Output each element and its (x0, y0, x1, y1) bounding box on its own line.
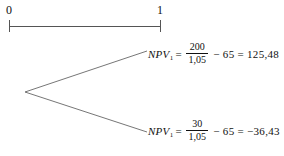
npv-symbol-upper-text: NPV (148, 48, 169, 60)
timeline-axis (9, 20, 160, 32)
lower-branch-line (25, 92, 147, 132)
fraction-lower-denominator: 1,05 (187, 131, 209, 142)
fraction-lower: 30 1,05 (186, 119, 208, 142)
formula-lower-outcome: NPV1 = 30 1,05 − 65 = −36,43 (148, 119, 280, 142)
decision-tree-branches (25, 51, 147, 132)
fraction-lower-numerator: 30 (190, 119, 204, 130)
fraction-upper-denominator: 1,05 (187, 54, 209, 65)
formula-upper-outcome: NPV1 = 200 1,05 − 65 = 125,48 (148, 42, 279, 65)
npv-symbol-lower: NPV1 (148, 125, 173, 137)
fraction-upper: 200 1,05 (186, 42, 208, 65)
upper-branch-line (25, 51, 147, 92)
npv-symbol-lower-text: NPV (148, 125, 169, 137)
equals-sign-lower: = (176, 125, 182, 137)
timeline-label-1: 1 (152, 4, 168, 16)
cropped-caption-strip (0, 149, 284, 156)
equals-sign-upper: = (176, 48, 182, 60)
formula-lower-tail: − 65 = −36,43 (213, 125, 280, 137)
npv-subscript-upper: 1 (170, 54, 174, 62)
formula-upper-tail: − 65 = 125,48 (213, 48, 279, 60)
timeline-label-0: 0 (1, 4, 17, 16)
fraction-upper-numerator: 200 (188, 42, 207, 53)
npv-symbol-upper: NPV1 (148, 48, 173, 60)
npv-subscript-lower: 1 (170, 131, 174, 139)
npv-decision-tree-figure: 0 1 NPV1 = 200 1,05 − 65 = 125,48 NPV1 =… (0, 0, 284, 156)
